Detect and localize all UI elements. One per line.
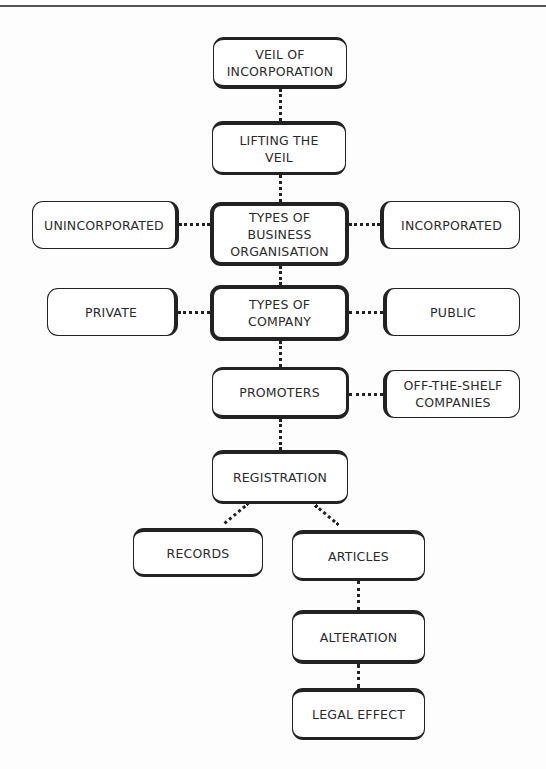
node-types-of-business-organisation: TYPES OF BUSINESS ORGANISATION: [210, 202, 349, 266]
node-articles: ARTICLES: [292, 530, 425, 581]
top-rule: [0, 5, 546, 7]
connector-types-business-unincorporated: [179, 223, 210, 226]
connector-promoters-registration: [279, 419, 282, 450]
node-off-the-shelf-companies: OFF-THE-SHELF COMPANIES: [383, 370, 520, 418]
connector-types-business-incorporated: [349, 223, 380, 226]
connector-alteration-legal-effect: [357, 664, 360, 688]
node-registration: REGISTRATION: [212, 450, 348, 504]
node-lifting-the-veil: LIFTING THE VEIL: [212, 121, 346, 175]
node-public: PUBLIC: [383, 288, 520, 336]
connector-articles-alteration: [357, 581, 360, 610]
node-veil-of-incorporation: VEIL OF INCORPORATION: [213, 37, 347, 89]
node-legal-effect: LEGAL EFFECT: [292, 688, 425, 740]
connector-registration-records: [224, 502, 250, 525]
node-unincorporated: UNINCORPORATED: [32, 201, 179, 249]
connector-types-company-private: [178, 311, 210, 314]
node-records: RECORDS: [133, 528, 263, 577]
connector-lifting-types-business: [279, 175, 282, 202]
node-incorporated: INCORPORATED: [380, 201, 520, 249]
connector-types-company-public: [349, 311, 383, 314]
node-private: PRIVATE: [47, 288, 178, 336]
connector-types-business-types-company: [279, 266, 282, 285]
connector-veil-lifting: [279, 89, 282, 121]
node-types-of-company: TYPES OF COMPANY: [210, 285, 349, 341]
connector-types-company-promoters: [279, 341, 282, 367]
node-promoters: PROMOTERS: [212, 367, 349, 419]
connector-promoters-off-the-shelf: [349, 393, 383, 396]
connector-registration-articles: [314, 504, 340, 526]
node-alteration: ALTERATION: [292, 610, 425, 664]
